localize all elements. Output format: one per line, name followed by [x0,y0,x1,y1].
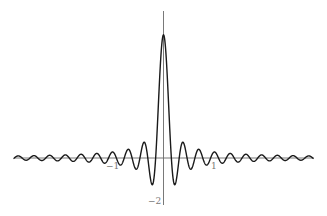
x-tick-label-pos1: 1 [211,162,217,171]
sinc-plot [0,0,327,216]
y-tick-label-neg2: −2 [148,197,161,206]
x-tick-label-neg1: −1 [106,162,119,171]
